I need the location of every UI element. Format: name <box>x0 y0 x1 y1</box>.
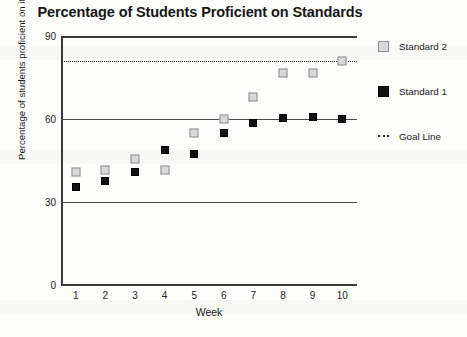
y-tick-label: 90 <box>45 31 56 42</box>
data-point-standard-1 <box>161 146 169 154</box>
data-point-standard-1 <box>309 113 317 121</box>
chart-title: Percentage of Students Proficient on Sta… <box>0 4 400 20</box>
x-tick-label: 3 <box>132 290 138 301</box>
y-axis-line <box>61 36 63 285</box>
y-tick-label: 60 <box>45 114 56 125</box>
data-point-standard-1 <box>72 183 80 191</box>
x-tick-label: 7 <box>251 290 257 301</box>
x-tick-label: 6 <box>221 290 227 301</box>
y-tick-label: 30 <box>45 197 56 208</box>
legend-swatch-goal-line-icon <box>378 135 389 137</box>
legend-label-standard-1: Standard 1 <box>399 86 447 97</box>
data-point-standard-2 <box>308 69 317 78</box>
legend-label-standard-2: Standard 2 <box>399 41 447 52</box>
data-point-standard-2 <box>160 166 169 175</box>
legend-item-standard-1[interactable]: Standard 1 <box>378 83 466 99</box>
data-point-standard-2 <box>71 167 80 176</box>
data-point-standard-1 <box>279 114 287 122</box>
data-point-standard-2 <box>190 128 199 137</box>
x-tick-label: 8 <box>280 290 286 301</box>
legend-item-standard-2[interactable]: Standard 2 <box>378 38 466 54</box>
x-axis-line <box>61 284 357 286</box>
reference-line-lower-solid-line <box>61 202 357 203</box>
y-tick-label: 0 <box>50 280 56 291</box>
plot-area: 0306090 12345678910 <box>61 36 357 285</box>
data-point-standard-2 <box>249 92 258 101</box>
x-tick-label: 4 <box>162 290 168 301</box>
data-point-standard-1 <box>338 115 346 123</box>
x-axis-title: Week <box>61 306 357 318</box>
x-tick-label: 10 <box>337 290 348 301</box>
y-axis-title: Percentage of students proficient on ite… <box>16 0 27 160</box>
x-tick-label: 2 <box>103 290 109 301</box>
legend-label-goal-line: Goal Line <box>399 131 441 142</box>
legend-swatch-standard-2-icon <box>378 41 389 52</box>
data-point-standard-2 <box>279 69 288 78</box>
data-point-standard-2 <box>131 155 140 164</box>
data-point-standard-1 <box>101 177 109 185</box>
x-tick-label: 9 <box>310 290 316 301</box>
data-point-standard-1 <box>249 119 257 127</box>
data-point-standard-2 <box>338 56 347 65</box>
legend-swatch-standard-1-icon <box>378 86 389 97</box>
data-point-standard-1 <box>220 129 228 137</box>
chart-legend: Standard 2 Standard 1 Goal Line <box>378 38 466 173</box>
data-point-standard-2 <box>101 166 110 175</box>
x-tick-label: 5 <box>191 290 197 301</box>
reference-line-goal-line <box>61 61 357 62</box>
data-point-standard-1 <box>131 168 139 176</box>
x-tick-label: 1 <box>73 290 79 301</box>
legend-item-goal-line[interactable]: Goal Line <box>378 128 466 144</box>
data-point-standard-1 <box>190 150 198 158</box>
plot-top-border <box>61 36 357 38</box>
data-point-standard-2 <box>219 115 228 124</box>
